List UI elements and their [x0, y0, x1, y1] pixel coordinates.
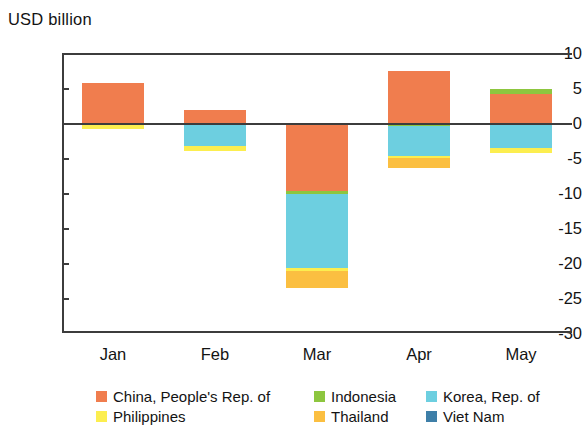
zero-baseline: [62, 123, 572, 125]
y-axis-title: USD billion: [8, 10, 92, 29]
x-tick-label: May: [466, 345, 576, 364]
legend-item[interactable]: Philippines: [96, 407, 186, 425]
legend-item[interactable]: China, People's Rep. of: [96, 387, 270, 406]
legend-label: Indonesia: [331, 389, 396, 404]
bar-segment: [388, 126, 450, 156]
bar-segment: [184, 110, 246, 123]
bar-segment: [490, 123, 552, 148]
bar-segment: [82, 83, 144, 123]
legend-label: Philippines: [113, 409, 186, 424]
bar-segment: [490, 94, 552, 123]
legend-item[interactable]: Thailand: [314, 407, 389, 425]
legend-row: PhilippinesThailandViet Nam: [96, 407, 566, 425]
legend-label: Thailand: [331, 409, 389, 424]
x-tick-label: Jan: [58, 345, 168, 364]
bar-segment: [490, 89, 552, 93]
stacked-bar-chart: USD billion 1050-5-10-15-20-25-30 JanFeb…: [0, 0, 582, 425]
legend-row: China, People's Rep. ofIndonesiaKorea, R…: [96, 387, 566, 406]
bar-segment: [286, 271, 348, 289]
legend-label: Korea, Rep. of: [443, 389, 540, 404]
bar-segment: [184, 123, 246, 146]
legend-item[interactable]: Viet Nam: [426, 407, 504, 425]
bar-segment: [388, 71, 450, 124]
bar-segment: [388, 158, 450, 168]
bar-segment: [286, 123, 348, 191]
legend-swatch-icon: [426, 411, 437, 422]
legend-swatch-icon: [314, 411, 325, 422]
legend-item[interactable]: Korea, Rep. of: [426, 387, 540, 406]
legend-label: Viet Nam: [443, 409, 504, 424]
bar-segment: [184, 146, 246, 151]
bar-segment: [490, 148, 552, 154]
legend-swatch-icon: [426, 391, 437, 402]
x-tick-label: Mar: [262, 345, 372, 364]
legend-swatch-icon: [96, 391, 107, 402]
x-tick-label: Feb: [160, 345, 270, 364]
legend-swatch-icon: [314, 391, 325, 402]
x-tick-label: Apr: [364, 345, 474, 364]
legend-swatch-icon: [96, 411, 107, 422]
legend-item[interactable]: Indonesia: [314, 387, 396, 406]
chart-legend: China, People's Rep. ofIndonesiaKorea, R…: [96, 387, 566, 425]
legend-label: China, People's Rep. of: [113, 389, 270, 404]
bar-segment: [286, 194, 348, 268]
